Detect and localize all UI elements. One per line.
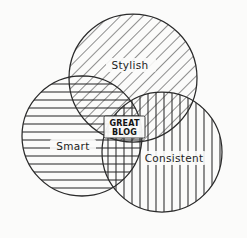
venn-set-consistent[interactable]: Consistent xyxy=(102,92,222,212)
venn-set-smart-label: Smart xyxy=(56,140,89,152)
venn-diagram-figure: Stylish Smart Consistent GREAT BLOG xyxy=(0,0,247,238)
venn-set-consistent-label: Consistent xyxy=(145,152,204,164)
venn-diagram-canvas: Stylish Smart Consistent GREAT BLOG xyxy=(0,0,247,238)
venn-intersection-label-line-1: GREAT xyxy=(109,119,140,128)
venn-set-stylish-label: Stylish xyxy=(111,59,148,71)
venn-intersection-label-line-2: BLOG xyxy=(112,128,137,137)
venn-intersection-all-three[interactable]: GREAT BLOG xyxy=(104,116,145,138)
